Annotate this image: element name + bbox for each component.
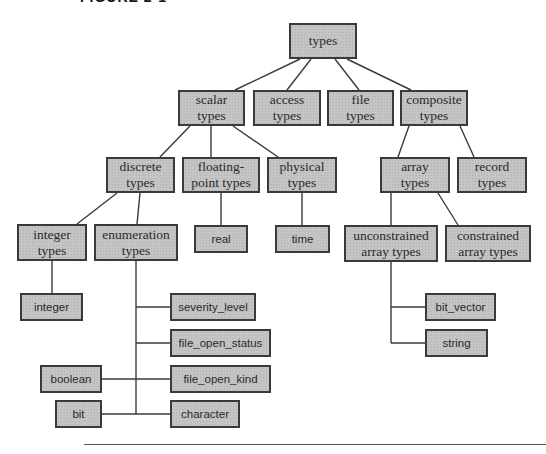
node-label-line1: enumeration bbox=[102, 227, 169, 243]
node-scalar-types: scalar types bbox=[178, 90, 245, 126]
node-integer-types: integer types bbox=[17, 224, 87, 261]
node-label: file_open_kind bbox=[183, 373, 257, 385]
node-label: integer bbox=[34, 301, 69, 313]
node-types: types bbox=[289, 23, 357, 59]
node-label-line1: access bbox=[270, 92, 304, 108]
node-label-line2: types bbox=[38, 243, 67, 259]
node-file-open-status: file_open_status bbox=[170, 329, 271, 357]
node-array-types: array types bbox=[380, 157, 450, 193]
node-label-line1: discrete bbox=[120, 159, 162, 175]
node-label: types bbox=[309, 33, 338, 49]
node-label-line2: types bbox=[401, 175, 430, 191]
node-label-line2: array types bbox=[361, 244, 421, 260]
node-label-line2: array types bbox=[458, 244, 518, 260]
node-floating-point-types: floating- point types bbox=[182, 157, 260, 193]
node-label-line1: scalar bbox=[196, 92, 227, 108]
node-label-line1: integer bbox=[33, 227, 70, 243]
node-bit: bit bbox=[55, 400, 102, 428]
node-label-line1: composite bbox=[406, 92, 462, 108]
node-label: real bbox=[211, 233, 230, 245]
node-severity-level: severity_level bbox=[170, 293, 256, 321]
node-label-line2: types bbox=[346, 108, 375, 124]
node-label: severity_level bbox=[178, 301, 248, 313]
node-label-line2: types bbox=[273, 108, 302, 124]
node-label-line1: unconstrained bbox=[353, 228, 429, 244]
node-label-line1: array bbox=[401, 159, 429, 175]
node-label-line2: types bbox=[420, 108, 449, 124]
node-constrained-array-types: constrained array types bbox=[445, 225, 531, 262]
node-composite-types: composite types bbox=[400, 90, 468, 126]
node-label-line1: floating- bbox=[198, 159, 245, 175]
node-label-line1: constrained bbox=[457, 228, 519, 244]
node-label: character bbox=[181, 408, 229, 420]
node-label-line2: types bbox=[126, 175, 155, 191]
node-label: time bbox=[292, 233, 314, 245]
node-label: string bbox=[442, 337, 470, 349]
figure-bottom-rule bbox=[84, 444, 546, 445]
node-label-line2: types bbox=[478, 175, 507, 191]
node-label: bit_vector bbox=[436, 301, 486, 313]
node-time: time bbox=[275, 225, 330, 253]
node-access-types: access types bbox=[253, 90, 321, 126]
node-boolean: boolean bbox=[40, 365, 102, 393]
node-discrete-types: discrete types bbox=[106, 157, 175, 193]
node-record-types: record types bbox=[457, 157, 527, 193]
node-label-line2: point types bbox=[191, 175, 251, 191]
node-file-open-kind: file_open_kind bbox=[170, 365, 271, 393]
node-label-line1: physical bbox=[280, 159, 325, 175]
node-bit-vector: bit_vector bbox=[425, 293, 496, 321]
node-string: string bbox=[425, 329, 488, 357]
node-label-line2: types bbox=[122, 243, 151, 259]
node-label-line2: types bbox=[288, 175, 317, 191]
node-label: file_open_status bbox=[179, 337, 263, 349]
node-label: boolean bbox=[51, 373, 92, 385]
node-character: character bbox=[170, 400, 240, 428]
node-enumeration-types: enumeration types bbox=[94, 224, 178, 261]
node-file-types: file types bbox=[327, 90, 394, 126]
node-label: bit bbox=[72, 408, 84, 420]
node-label-line1: file bbox=[352, 92, 370, 108]
node-real: real bbox=[194, 225, 248, 253]
node-physical-types: physical types bbox=[267, 157, 337, 193]
node-unconstrained-array-types: unconstrained array types bbox=[344, 225, 438, 262]
node-label-line1: record bbox=[475, 159, 509, 175]
node-label-line2: types bbox=[197, 108, 226, 124]
node-integer: integer bbox=[20, 293, 83, 321]
